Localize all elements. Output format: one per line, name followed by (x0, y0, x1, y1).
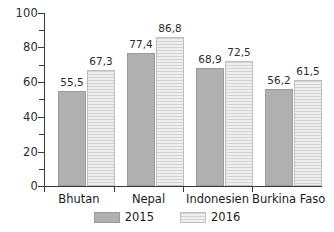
legend-swatch-2015-icon (94, 212, 120, 223)
bar-value-burkina-faso-2015: 56,2 (267, 75, 290, 86)
y-axis-label-40: 40 (23, 112, 38, 124)
x-axis-label-bhutan: Bhutan (44, 194, 114, 206)
y-axis-label-80: 80 (23, 42, 38, 54)
bar-bhutan-2016[interactable]: 67,3 (87, 70, 115, 186)
y-axis-label-100: 100 (15, 8, 38, 20)
legend-item-2015[interactable]: 2015 (94, 212, 154, 224)
x-axis-label-burkina-faso: Burkina Faso (252, 194, 322, 206)
legend-item-2016[interactable]: 2016 (180, 212, 240, 224)
legend-label-2016: 2016 (211, 212, 240, 224)
bar-value-burkina-faso-2016: 61,5 (296, 66, 319, 77)
bar-value-nepal-2016: 86,8 (158, 23, 181, 34)
bar-nepal-2016[interactable]: 86,8 (156, 37, 184, 186)
plot-area: 55,5 67,3 77,4 86,8 68,9 72,5 (44, 14, 322, 186)
x-tick-boundary-2 (183, 186, 184, 192)
bar-value-indonesien-2016: 72,5 (227, 47, 250, 58)
y-axis-label-60: 60 (23, 77, 38, 89)
bar-bhutan-2015[interactable]: 55,5 (58, 91, 86, 187)
bar-burkina-faso-2015[interactable]: 56,2 (265, 89, 293, 186)
bar-value-nepal-2015: 77,4 (129, 39, 152, 50)
bar-burkina-faso-2016[interactable]: 61,5 (294, 80, 322, 186)
bar-value-bhutan-2015: 55,5 (60, 77, 83, 88)
bar-value-indonesien-2015: 68,9 (198, 54, 221, 65)
x-tick-boundary-0 (44, 186, 45, 192)
bar-indonesien-2015[interactable]: 68,9 (196, 68, 224, 187)
bar-nepal-2015[interactable]: 77,4 (127, 53, 155, 186)
legend-swatch-2016-icon (180, 212, 206, 223)
y-axis-label-0: 0 (30, 181, 38, 193)
x-axis-label-indonesien: Indonesien (183, 194, 252, 206)
bar-chart: 100 80 60 40 20 0 55,5 67,3 77,4 (0, 0, 334, 232)
bar-value-bhutan-2016: 67,3 (89, 56, 112, 67)
x-axis-label-nepal: Nepal (114, 194, 183, 206)
bar-indonesien-2016[interactable]: 72,5 (225, 61, 253, 186)
x-tick-boundary-1 (114, 186, 115, 192)
chart-legend: 2015 2016 (0, 212, 334, 224)
y-axis-label-20: 20 (23, 147, 38, 159)
legend-label-2015: 2015 (125, 212, 154, 224)
